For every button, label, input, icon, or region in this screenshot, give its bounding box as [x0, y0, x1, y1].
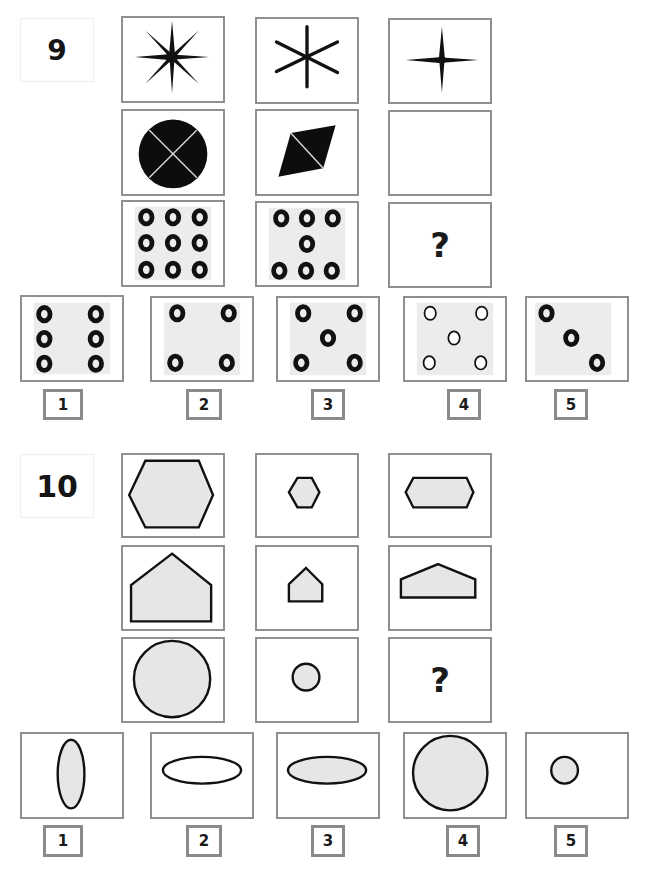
p9-answer-label-4[interactable]: 4: [447, 389, 481, 420]
large-hexagon-icon: [123, 455, 223, 536]
p9-cell-r1c2-six-point-star: [255, 17, 359, 104]
horizontal-ellipse-grey-icon: [278, 734, 378, 817]
wide-pentagon-icon: [390, 547, 490, 629]
p9-cell-r3c1-nine-rings: [121, 200, 225, 287]
p9-answer-label-3[interactable]: 3: [311, 389, 345, 420]
large-circle-icon: [123, 639, 223, 721]
wide-hexagon-icon: [390, 455, 490, 536]
seven-rings-icon: [257, 203, 357, 285]
large-circle-answer-icon: [405, 734, 505, 817]
p10-answer-label-1[interactable]: 1: [43, 825, 83, 857]
question-mark-icon: ?: [390, 639, 490, 721]
problem-10-number: 10: [20, 454, 94, 518]
p10-cell-r2c1-large-pentagon: [121, 545, 225, 631]
p9-cell-r1c1-eight-point-star: [121, 16, 225, 103]
p10-cell-r1c3-wide-hexagon: [388, 453, 492, 538]
p10-answer-label-2[interactable]: 2: [186, 825, 222, 857]
p10-cell-r2c2-small-pentagon: [255, 545, 359, 631]
p10-answer-2[interactable]: [150, 732, 254, 819]
p9-cell-r2c1-divided-circle: [121, 109, 225, 196]
p10-answer-label-5[interactable]: 5: [554, 825, 588, 857]
large-pentagon-icon: [123, 547, 223, 629]
p9-cell-r1c3-four-point-star: [388, 18, 492, 104]
nine-rings-icon: [123, 202, 223, 285]
five-thin-rings-icon: [405, 298, 505, 380]
four-point-star-icon: [390, 20, 490, 102]
question-mark-icon: ?: [390, 204, 490, 286]
p9-answer-2[interactable]: [150, 296, 254, 382]
p10-answer-3[interactable]: [276, 732, 380, 819]
p9-cell-r2c3-empty: [388, 110, 492, 196]
p10-answer-4[interactable]: [403, 732, 507, 819]
p10-cell-r2c3-wide-pentagon: [388, 545, 492, 631]
p10-answer-label-4[interactable]: 4: [446, 825, 480, 857]
five-thick-rings-icon: [278, 298, 378, 380]
p10-cell-r3c2-small-circle: [255, 637, 359, 723]
p10-answer-label-3[interactable]: 3: [311, 825, 345, 857]
rhombus-icon: [257, 111, 357, 194]
p9-answer-label-5[interactable]: 5: [554, 389, 588, 420]
small-hexagon-icon: [257, 455, 357, 536]
six-point-star-icon: [257, 19, 357, 102]
vertical-ellipse-icon: [22, 734, 122, 817]
p9-cell-r3c2-seven-rings: [255, 201, 359, 287]
p9-answer-4[interactable]: [403, 296, 507, 382]
p10-cell-r1c1-large-hexagon: [121, 453, 225, 538]
p10-cell-r1c2-small-hexagon: [255, 453, 359, 538]
p10-cell-r3c1-large-circle: [121, 637, 225, 723]
small-circle-answer-icon: [527, 734, 627, 817]
p9-answer-3[interactable]: [276, 296, 380, 382]
p9-answer-5[interactable]: [525, 296, 629, 382]
six-rings-icon: [22, 297, 122, 380]
p10-answer-5[interactable]: [525, 732, 629, 819]
problem-9-number: 9: [20, 18, 94, 82]
horizontal-ellipse-white-icon: [152, 734, 252, 817]
p9-answer-label-1[interactable]: 1: [43, 389, 83, 420]
divided-circle-icon: [123, 111, 223, 194]
p10-cell-r3c3-missing: ?: [388, 637, 492, 723]
small-pentagon-icon: [257, 547, 357, 629]
p9-cell-r3c3-missing: ?: [388, 202, 492, 288]
p10-answer-1[interactable]: [20, 732, 124, 819]
three-diagonal-rings-icon: [527, 298, 627, 380]
four-rings-icon: [152, 298, 252, 380]
p9-answer-1[interactable]: [20, 295, 124, 382]
p9-cell-r2c2-rhombus: [255, 109, 359, 196]
eight-point-star-icon: [123, 18, 223, 101]
p9-answer-label-2[interactable]: 2: [186, 389, 222, 420]
small-circle-icon: [257, 639, 357, 721]
